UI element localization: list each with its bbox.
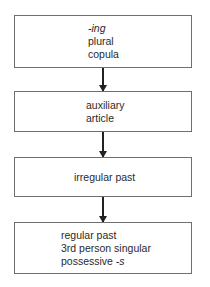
- arrow-3-to-4: [102, 197, 104, 222]
- stage-4-line-2: 3rd person singular: [61, 242, 151, 255]
- stage-4-line-1: regular past: [61, 229, 151, 242]
- stage-4-box: regular past 3rd person singular possess…: [14, 222, 192, 274]
- stage-2-line-1: auxiliary: [86, 99, 125, 112]
- stage-1-line-1: -ing: [88, 22, 119, 35]
- stage-4-line-3: possessive -s: [61, 255, 151, 268]
- stage-3-box: irregular past: [14, 157, 192, 197]
- arrow-2-to-3: [102, 132, 104, 157]
- stage-1-box: -ing plural copula: [14, 15, 192, 68]
- stage-3-line-1: irregular past: [74, 171, 135, 184]
- stage-2-box: auxiliary article: [14, 91, 192, 132]
- arrow-1-to-2: [102, 68, 104, 91]
- stage-1-line-3: copula: [88, 48, 119, 61]
- stage-1-line-2: plural: [88, 35, 119, 48]
- stage-2-line-2: article: [86, 112, 125, 125]
